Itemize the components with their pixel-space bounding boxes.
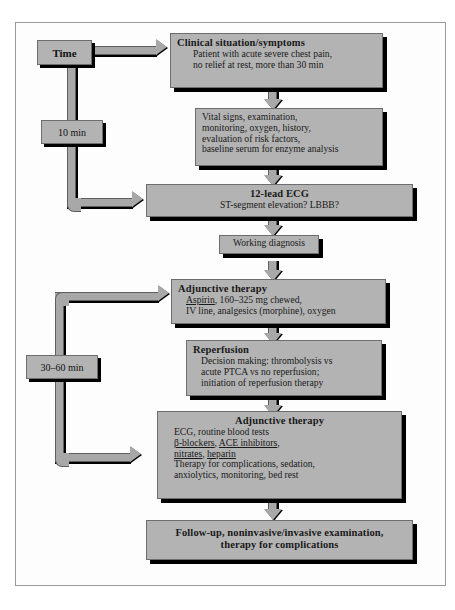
term-nitrates: nitrates bbox=[174, 448, 202, 459]
time-marker-10min: 10 min bbox=[41, 120, 103, 144]
node-ecg-line-1: ST-segment elevation? LBBB? bbox=[153, 200, 406, 211]
node-adj1-line-1-rest: , 160–325 mg chewed, bbox=[215, 294, 302, 305]
node-rep-line-2: acute PTCA vs no reperfusion; bbox=[193, 367, 375, 378]
node-12-lead-ecg: 12-lead ECG ST-segment elevation? LBBB? bbox=[146, 184, 413, 217]
node-adj2-line-5: anxiolytics, monitoring, bed rest bbox=[164, 470, 395, 481]
connector-elbow-upper-lower bbox=[55, 292, 69, 306]
connector-arrow-to-ecg bbox=[132, 191, 143, 207]
node-follow-line-1: Follow-up, noninvasive/invasive examinat… bbox=[153, 527, 406, 539]
node-reperfusion: Reperfusion Decision making: thrombolysi… bbox=[186, 340, 382, 396]
node-clinical-situation: Clinical situation/symptoms Patient with… bbox=[170, 33, 383, 88]
diagram-canvas: Time 10 min 30–60 min Clinical situation… bbox=[0, 0, 455, 610]
node-follow-line-2: therapy for complications bbox=[153, 539, 406, 551]
time-label-chip: Time bbox=[37, 40, 92, 65]
connector-to-adjunctive1 bbox=[55, 292, 159, 301]
node-vital-signs: Vital signs, examination, monitoring, ox… bbox=[195, 108, 383, 166]
node-follow-up: Follow-up, noninvasive/invasive examinat… bbox=[146, 520, 413, 560]
node-adj2-end-1: , bbox=[277, 437, 279, 448]
term-heparin: heparin bbox=[207, 448, 236, 459]
connector-arrow-adjunctive2-followup bbox=[264, 509, 282, 520]
node-adjunctive-therapy-1: Adjunctive therapy Aspirin, 160–325 mg c… bbox=[171, 279, 386, 324]
connector-elbow-lower-lower bbox=[55, 453, 69, 467]
connector-elbow-lower-upper bbox=[67, 198, 81, 212]
time-marker-30-60min-text: 30–60 min bbox=[40, 362, 83, 373]
node-adj1-line-2: IV line, analgesics (morphine), oxygen bbox=[178, 306, 379, 317]
term-aspirin: Aspirin bbox=[186, 294, 215, 305]
connector-spine-lower bbox=[55, 300, 64, 462]
node-vitals-line-4: baseline serum for enzyme analysis bbox=[202, 144, 376, 155]
node-working-diagnosis: Working diagnosis bbox=[219, 235, 319, 254]
node-rep-line-3: initiation of reperfusion therapy bbox=[193, 378, 375, 389]
node-working-line-1: Working diagnosis bbox=[226, 238, 312, 249]
connector-arrow-to-clinical bbox=[156, 39, 167, 55]
connector-arrow-to-adjunctive2 bbox=[130, 446, 141, 462]
node-clinical-line-2: no relief at rest, more than 30 min bbox=[177, 60, 376, 71]
connector-arrow-to-adjunctive1 bbox=[158, 285, 169, 301]
term-ace-inhibitors: ACE inhibitors bbox=[219, 437, 277, 448]
term-beta-blockers: β-blockers bbox=[174, 437, 215, 448]
time-marker-30-60min: 30–60 min bbox=[26, 355, 98, 379]
time-label-text: Time bbox=[52, 47, 76, 59]
time-marker-10min-text: 10 min bbox=[58, 127, 86, 138]
node-adjunctive-therapy-2: Adjunctive therapy ECG, routine blood te… bbox=[157, 411, 402, 499]
